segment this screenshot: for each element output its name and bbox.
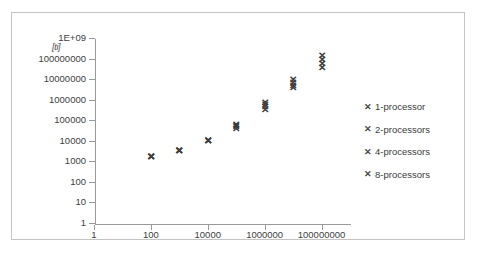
legend-item-label: 4-processors xyxy=(375,146,430,157)
legend-item: ✕8-processors xyxy=(364,169,476,180)
data-point-marker: ✕ xyxy=(318,63,326,73)
chart-legend: ✕1-processor✕2-processors✕4-processors✕8… xyxy=(364,101,476,191)
legend-marker-icon: ✕ xyxy=(364,147,375,157)
legend-item-label: 2-processors xyxy=(375,124,430,135)
data-point-marker: ✕ xyxy=(232,124,240,134)
legend-item: ✕2-processors xyxy=(364,124,476,135)
legend-item: ✕1-processor xyxy=(364,101,476,112)
legend-item: ✕4-processors xyxy=(364,146,476,157)
chart-frame: [ti] 1E+09100000000100000001000000100000… xyxy=(11,12,465,240)
legend-marker-icon: ✕ xyxy=(364,102,375,112)
data-point-marker: ✕ xyxy=(261,105,269,115)
data-point-marker: ✕ xyxy=(147,152,155,162)
data-point-marker: ✕ xyxy=(204,136,212,146)
data-point-marker: ✕ xyxy=(289,83,297,93)
legend-item-label: 1-processor xyxy=(375,101,425,112)
data-point-marker: ✕ xyxy=(175,146,183,156)
legend-marker-icon: ✕ xyxy=(364,124,375,134)
legend-item-label: 8-processors xyxy=(375,169,430,180)
legend-marker-icon: ✕ xyxy=(364,169,375,179)
